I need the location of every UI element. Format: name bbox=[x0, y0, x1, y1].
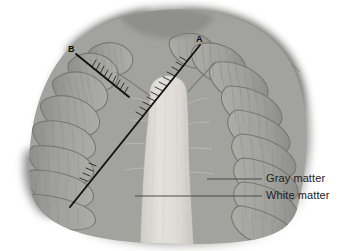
white-matter-label: White matter bbox=[266, 189, 330, 201]
gray-matter-label: Gray matter bbox=[266, 172, 325, 184]
annotation-letter-b: B bbox=[68, 44, 75, 54]
cerebellum-figure: Gray matter White matter A B bbox=[0, 0, 349, 251]
specimen-illustration bbox=[0, 0, 349, 251]
annotation-letter-a: A bbox=[196, 34, 203, 44]
